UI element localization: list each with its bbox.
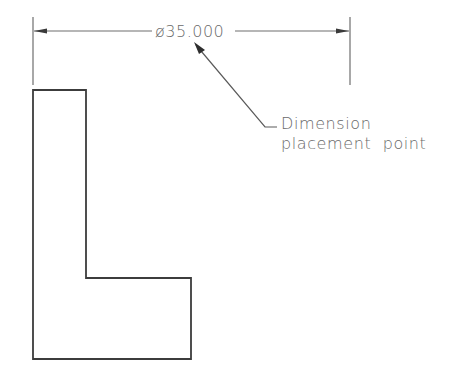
- leader-arrowhead-icon: [194, 42, 205, 54]
- annotation-line-2: placement point: [281, 134, 426, 153]
- arrowhead-left-icon: [34, 29, 47, 34]
- arrowhead-right-icon: [336, 29, 349, 34]
- drawing-canvas: ø35.000 Dimension placement point: [0, 0, 463, 376]
- annotation-line-1: Dimension: [281, 114, 371, 133]
- dimension-text: ø35.000: [155, 22, 224, 41]
- l-profile-shape: [33, 90, 191, 359]
- leader-line: [196, 45, 277, 127]
